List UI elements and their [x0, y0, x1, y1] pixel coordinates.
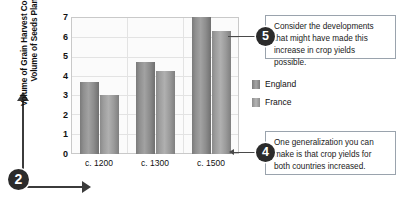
bar-group-c-1300 — [127, 17, 183, 154]
bar-group-c-1500 — [183, 17, 239, 154]
legend-swatch-england — [252, 80, 260, 89]
y-tick-6: 6 — [52, 32, 68, 42]
callout-badge-5[interactable]: 5 — [256, 27, 275, 46]
axis-pointer-right-arrow-icon — [82, 181, 91, 193]
y-tick-1: 1 — [52, 129, 68, 139]
bar-england-c-1300 — [136, 62, 155, 154]
callout-badge-2[interactable]: 2 — [8, 169, 29, 190]
callout-box-4: One generalization you can make is that … — [265, 131, 396, 175]
y-tick-0: 0 — [52, 149, 68, 159]
callout-4-left-arrow-icon — [229, 149, 234, 155]
y-tick-5: 5 — [52, 51, 68, 61]
callout-4-leader-line — [231, 152, 258, 153]
chart-legend: England France — [252, 79, 322, 115]
y-tick-7: 7 — [52, 12, 68, 22]
y-axis-title: Volume of Grain Harvest Compared to Volu… — [16, 0, 44, 108]
x-tick-2: c. 1500 — [183, 158, 239, 172]
x-tick-1: c. 1300 — [127, 158, 183, 172]
legend-item-england: England — [252, 79, 322, 89]
callout-box-5: Consider the developments that might hav… — [265, 15, 396, 59]
y-tick-2: 2 — [52, 110, 68, 120]
axis-pointer-horizontal-line — [22, 186, 84, 188]
bar-france-c-1200 — [100, 95, 119, 154]
legend-swatch-france — [252, 98, 260, 107]
callout-badge-4[interactable]: 4 — [256, 143, 275, 162]
bar-england-c-1500 — [192, 17, 211, 154]
callout-5-leader-line — [228, 36, 258, 37]
bar-france-c-1300 — [156, 71, 175, 154]
legend-label-france: France — [265, 97, 291, 107]
bar-france-c-1500 — [212, 31, 231, 154]
y-tick-3: 3 — [52, 90, 68, 100]
y-axis-tick-labels: 7 6 5 4 3 2 1 0 — [50, 17, 68, 154]
bar-series-container — [71, 17, 239, 154]
x-axis-tick-labels: c. 1200 c. 1300 c. 1500 — [71, 158, 239, 172]
chart-figure: 2 Volume of Grain Harvest Compared to Vo… — [0, 0, 417, 208]
y-tick-4: 4 — [52, 71, 68, 81]
bar-england-c-1200 — [80, 82, 99, 154]
legend-label-england: England — [265, 79, 296, 89]
axis-pointer-vertical-line — [22, 98, 24, 170]
x-tick-0: c. 1200 — [71, 158, 127, 172]
legend-item-france: France — [252, 97, 322, 107]
bar-group-c-1200 — [71, 17, 127, 154]
